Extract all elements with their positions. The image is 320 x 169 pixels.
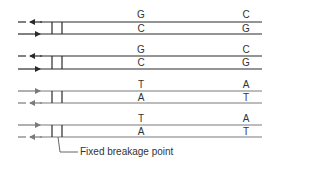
base-d3-p2-top: A [243,80,250,90]
base-d2-p1-bottom: C [137,58,144,68]
breakage-point-leader [58,137,78,152]
base-d3-p1-bottom: A [138,93,145,103]
base-d1-p1-bottom: C [137,24,144,34]
base-d1-p2-top: C [242,10,249,20]
breakage-point-caption: Fixed breakage point [80,147,173,157]
base-d3-p1-top: T [138,80,144,90]
base-d2-p1-top: G [137,45,145,55]
base-d4-p1-top: T [138,114,144,124]
base-d4-p1-bottom: A [138,127,145,137]
base-d4-p2-bottom: T [243,127,249,137]
base-d2-p2-top: C [242,45,249,55]
base-d2-p2-bottom: G [242,58,250,68]
base-d1-p1-top: G [137,10,145,20]
base-d4-p2-top: A [243,114,250,124]
base-d1-p2-bottom: G [242,24,250,34]
base-d3-p2-bottom: T [243,93,249,103]
